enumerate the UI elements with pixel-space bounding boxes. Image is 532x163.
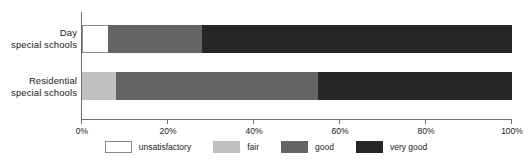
plot-area xyxy=(82,12,512,119)
legend-swatch-very-good xyxy=(356,141,383,153)
stacked-bar-chart: Day special schools Residential special … xyxy=(0,0,532,163)
category-label-residential-special-schools: Residential special schools xyxy=(0,75,77,98)
bar-residential-special-schools xyxy=(82,72,512,100)
chart-legend: unsatisfactory fair good very good xyxy=(0,141,532,153)
x-axis-tick-80 xyxy=(425,120,426,124)
legend-swatch-unsatisfactory xyxy=(105,141,132,153)
x-axis-tick-label-80: 80% xyxy=(417,126,434,136)
category-label-line2: special schools xyxy=(0,39,77,51)
legend-swatch-fair xyxy=(213,141,240,153)
legend-item-good: good xyxy=(281,141,334,153)
category-label-line1: Residential xyxy=(29,75,77,86)
legend-item-unsatisfactory: unsatisfactory xyxy=(105,141,191,153)
legend-item-fair: fair xyxy=(213,141,259,153)
x-axis-tick-label-20: 20% xyxy=(159,126,176,136)
bar-segment-very-good xyxy=(318,72,512,100)
x-axis-tick-40 xyxy=(253,120,254,124)
x-axis-tick-20 xyxy=(167,120,168,124)
bar-segment-good xyxy=(116,72,318,100)
x-axis-tick-label-40: 40% xyxy=(245,126,262,136)
bar-segment-fair xyxy=(82,72,116,100)
legend-swatch-good xyxy=(281,141,308,153)
x-axis-tick-label-0: 0% xyxy=(76,126,88,136)
legend-label-unsatisfactory: unsatisfactory xyxy=(139,142,191,152)
legend-label-good: good xyxy=(315,142,334,152)
bar-segment-unsatisfactory xyxy=(82,25,108,53)
x-axis-tick-100 xyxy=(511,120,512,124)
category-label-line2: special schools xyxy=(0,87,77,99)
category-label-day-special-schools: Day special schools xyxy=(0,27,77,50)
category-label-line1: Day xyxy=(60,27,77,38)
x-axis-line xyxy=(81,119,512,120)
legend-item-very-good: very good xyxy=(356,141,427,153)
x-axis-tick-label-60: 60% xyxy=(331,126,348,136)
x-axis-tick-label-100: 100% xyxy=(501,126,523,136)
bar-segment-good xyxy=(108,25,203,53)
bar-day-special-schools xyxy=(82,25,512,53)
legend-label-very-good: very good xyxy=(390,142,427,152)
bar-segment-very-good xyxy=(202,25,512,53)
x-axis-tick-60 xyxy=(339,120,340,124)
x-axis-tick-0 xyxy=(81,120,82,124)
legend-label-fair: fair xyxy=(247,142,259,152)
